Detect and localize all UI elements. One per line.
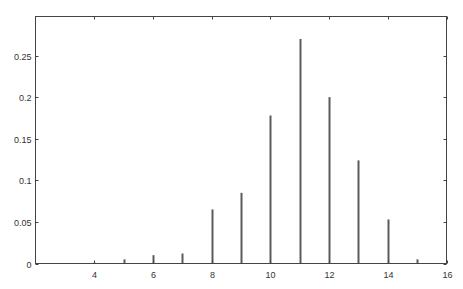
y-tick-label: 0	[26, 260, 31, 270]
x-tick-label: 14	[383, 270, 393, 280]
x-tick-label: 10	[265, 270, 275, 280]
y-tick-label: 0.05	[14, 218, 32, 228]
x-tick-label: 8	[210, 270, 215, 280]
y-tick-label: 0.25	[14, 52, 32, 62]
y-tick-label: 0.1	[19, 176, 32, 186]
x-tick-label: 16	[442, 270, 452, 280]
x-axis: 46810121416	[92, 17, 453, 280]
x-tick-label: 12	[324, 270, 334, 280]
y-tick-label: 0.2	[19, 93, 32, 103]
y-axis: 00.050.10.150.20.25	[14, 52, 447, 270]
y-tick-label: 0.15	[14, 135, 32, 145]
bar-series	[95, 39, 418, 264]
stem-bar-chart: 46810121416 00.050.10.150.20.25	[0, 0, 463, 289]
x-tick-label: 4	[92, 270, 97, 280]
x-tick-label: 6	[151, 270, 156, 280]
